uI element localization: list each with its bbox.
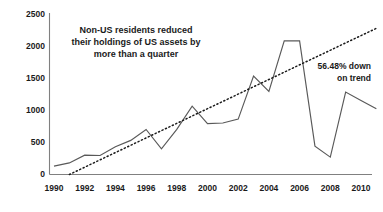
y-tick-label-2500: 2500 xyxy=(26,9,45,19)
x-tick-label-1998: 1998 xyxy=(167,183,186,193)
y-tick-label-1500: 1500 xyxy=(26,73,45,83)
headline-note-line-2: their holdings of US assets by xyxy=(71,37,200,47)
x-tick-label-2000: 2000 xyxy=(198,183,217,193)
chart-container: 2500 2000 1500 1000 500 0 1990 1992 1994… xyxy=(0,0,383,212)
x-tick-label-2002: 2002 xyxy=(229,183,248,193)
x-tick-label-1996: 1996 xyxy=(137,183,156,193)
data-series-line xyxy=(54,41,376,166)
x-tick-label-2010: 2010 xyxy=(352,183,371,193)
y-tick-label-1000: 1000 xyxy=(26,105,45,115)
line-chart: 2500 2000 1500 1000 500 0 1990 1992 1994… xyxy=(0,0,383,212)
headline-note-line-1: Non-US residents reduced xyxy=(79,25,192,35)
trend-note-line-1: 56.48% down xyxy=(318,61,371,71)
x-tick-label-1990: 1990 xyxy=(45,183,64,193)
x-tick-label-1994: 1994 xyxy=(106,183,125,193)
x-tick-label-2008: 2008 xyxy=(321,183,340,193)
x-tick-label-2006: 2006 xyxy=(290,183,309,193)
y-tick-label-2000: 2000 xyxy=(26,41,45,51)
y-tick-label-0: 0 xyxy=(40,169,45,179)
x-tick-label-1992: 1992 xyxy=(75,183,94,193)
y-tick-label-500: 500 xyxy=(31,137,45,147)
x-tick-label-2004: 2004 xyxy=(259,183,278,193)
headline-note-line-3: more than a quarter xyxy=(94,49,179,59)
trend-note-line-2: on trend xyxy=(337,73,371,83)
